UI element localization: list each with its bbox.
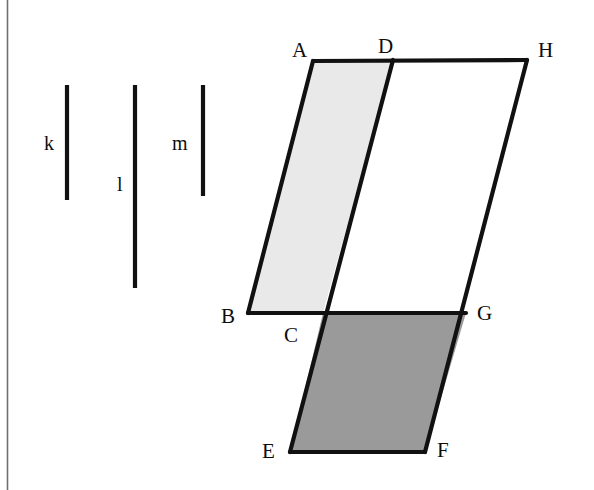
vertex-label-F: F bbox=[437, 440, 449, 461]
vertex-label-D: D bbox=[378, 36, 393, 57]
vertex-label-C: C bbox=[284, 325, 298, 346]
vertex-label-B: B bbox=[221, 306, 235, 327]
vertex-label-E: E bbox=[262, 441, 275, 462]
geometry-diagram bbox=[0, 0, 594, 490]
edge-AH bbox=[313, 60, 527, 61]
segment-label-m: m bbox=[172, 133, 188, 153]
figure-canvas: k l m A D H B C G E F bbox=[0, 0, 594, 490]
segment-label-l: l bbox=[117, 174, 123, 194]
vertex-label-H: H bbox=[538, 40, 553, 61]
region-CGFE bbox=[290, 313, 466, 452]
segment-label-k: k bbox=[44, 133, 54, 153]
vertex-label-G: G bbox=[477, 303, 492, 324]
vertex-label-A: A bbox=[292, 40, 307, 61]
